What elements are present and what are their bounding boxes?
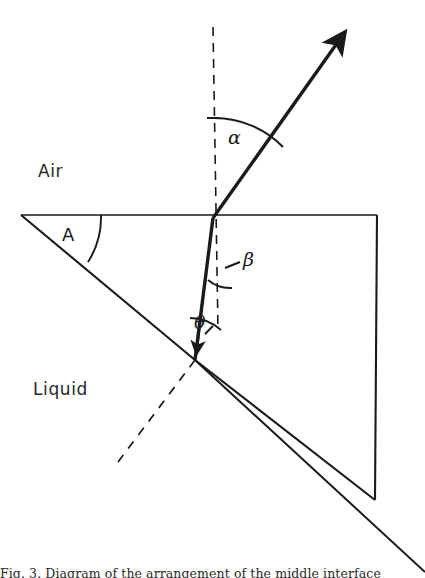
theta-arc-tick	[205, 326, 213, 334]
beta-angle-arc	[208, 280, 232, 288]
optics-diagram	[0, 0, 425, 578]
figure-root: Air Liquid A α β θ Fig. 3. Diagram of th…	[0, 0, 425, 578]
incidence-angle-label: α	[228, 128, 241, 147]
liquid-region-label: Liquid	[33, 381, 88, 398]
lower-face-normal-dashed-line	[118, 360, 195, 462]
apex-angle-arc	[88, 215, 101, 262]
figure-caption: Fig. 3. Diagram of the arrangement of th…	[0, 566, 425, 578]
apex-angle-label: A	[62, 226, 74, 244]
transmitted-ray-lower-right	[196, 361, 425, 572]
prism-right-face-line	[375, 215, 377, 500]
emergent-ray-in-air	[213, 32, 345, 218]
beta-angle-label: β	[243, 250, 254, 269]
beta-leader-line	[225, 262, 240, 268]
air-region-label: Air	[38, 163, 63, 180]
prism-bottom-face-line	[195, 360, 375, 500]
theta-angle-label: θ	[194, 313, 205, 332]
prism-left-face-line	[21, 215, 195, 360]
